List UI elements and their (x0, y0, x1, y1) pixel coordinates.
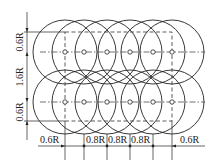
dim-label-v-bot: 0.6R (14, 102, 25, 122)
dim-label-h-1: 0.8R (86, 134, 106, 145)
circle-layout-diagram: 0.6R 1.6R 0.6R 0.6R 0.8R 0.8R 0.8R 0.6R (0, 0, 217, 168)
dim-label-v-top: 0.6R (14, 32, 25, 52)
dim-label-h-right: 0.6R (180, 134, 200, 145)
dim-label-v-mid: 1.6R (14, 67, 25, 87)
dim-label-h-left: 0.6R (40, 134, 60, 145)
center-markers (63, 50, 174, 104)
dim-label-h-3: 0.8R (131, 134, 151, 145)
dashed-boundary (65, 32, 172, 121)
dim-label-h-2: 0.8R (108, 134, 128, 145)
